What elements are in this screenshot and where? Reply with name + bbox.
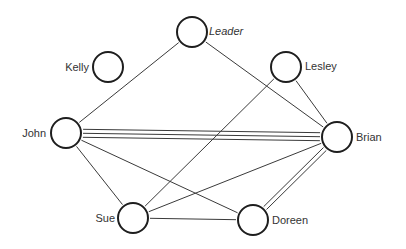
edge-line <box>81 140 237 213</box>
node-circle <box>51 118 81 148</box>
sociogram-diagram: LeaderKellyLesleyJohnBrianSueDoreen <box>0 0 406 249</box>
node-label: Lesley <box>305 60 337 72</box>
edge-line <box>267 150 327 209</box>
edge-line <box>206 42 323 127</box>
node-sue: Sue <box>95 203 148 233</box>
node-doreen: Doreen <box>238 205 308 235</box>
edge-line <box>150 218 236 219</box>
node-label: Doreen <box>272 214 308 226</box>
nodes-layer: LeaderKellyLesleyJohnBrianSueDoreen <box>22 17 382 235</box>
edge-sue-doreen <box>150 218 236 219</box>
edge-line <box>83 129 320 132</box>
edge-john-doreen <box>81 140 237 213</box>
edge-line <box>145 79 274 206</box>
node-circle <box>271 52 301 82</box>
edge-john-brian <box>83 129 320 140</box>
node-label: Leader <box>209 25 245 37</box>
node-circle <box>177 17 207 47</box>
node-john: John <box>22 118 81 148</box>
node-brian: Brian <box>322 122 382 152</box>
edge-line <box>77 146 123 204</box>
edge-line <box>83 133 320 136</box>
node-lesley: Lesley <box>271 52 337 82</box>
edge-line <box>296 81 327 124</box>
edge-line <box>83 137 320 140</box>
node-circle <box>238 205 268 235</box>
edge-brian-doreen <box>264 148 327 210</box>
edge-lesley-brian <box>296 81 327 124</box>
edge-line <box>79 43 178 123</box>
node-kelly: Kelly <box>65 52 123 82</box>
edge-leader-john <box>79 43 178 123</box>
node-label: Brian <box>356 131 382 143</box>
node-label: Kelly <box>65 61 89 73</box>
edge-john-sue <box>77 146 123 204</box>
node-circle <box>118 203 148 233</box>
edge-lesley-sue <box>145 79 274 206</box>
node-circle <box>322 122 352 152</box>
edge-line <box>264 148 324 207</box>
node-label: John <box>22 127 46 139</box>
node-label: Sue <box>95 212 115 224</box>
node-leader: Leader <box>177 17 245 47</box>
node-circle <box>93 52 123 82</box>
edge-leader-brian <box>206 42 323 127</box>
